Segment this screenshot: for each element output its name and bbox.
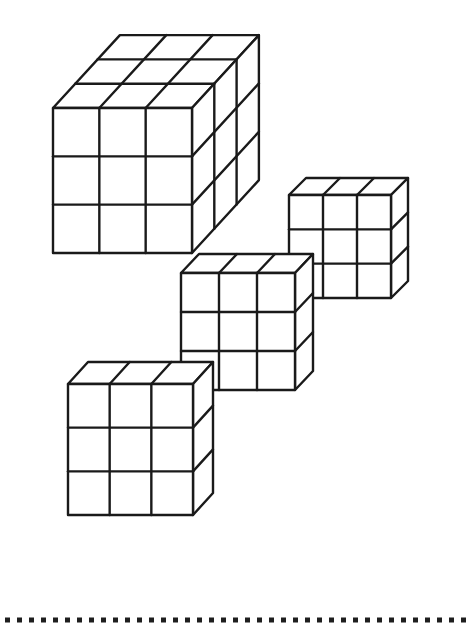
cut-line-dot [41,618,46,623]
cube-drawings [53,35,408,515]
cut-line-dot [125,618,130,623]
cut-line-dot [185,618,190,623]
side-face [193,362,213,515]
cut-line-dot [461,618,466,623]
side-face [295,254,313,390]
cut-line-dot [305,618,310,623]
cut-line-dot [17,618,22,623]
cut-line-dot [353,618,358,623]
cut-line-dot [53,618,58,623]
cut-line-dot [113,618,118,623]
cut-line-dot [77,618,82,623]
front-face [68,384,193,515]
cut-line-dot [197,618,202,623]
worksheet-canvas [0,0,473,639]
cut-line-dot [161,618,166,623]
cut-line-dot [329,618,334,623]
cut-line-dot [257,618,262,623]
cut-line-dot [269,618,274,623]
top-face [68,362,213,384]
cube-3x3x1-bottom-left [68,362,213,515]
cut-line-dot [245,618,250,623]
cut-line-dot [173,618,178,623]
cut-line-dot [101,618,106,623]
cut-line-dot [89,618,94,623]
side-face [391,178,408,298]
cut-line-dot [137,618,142,623]
cut-line-dot [65,618,70,623]
cut-line-dot [29,618,34,623]
cut-line-dot [293,618,298,623]
cut-line-dot [389,618,394,623]
cut-line-dot [413,618,418,623]
cut-line-dot [377,618,382,623]
cut-line-dot [425,618,430,623]
large-cube-3x3x3 [53,35,259,253]
top-face [181,254,313,273]
cut-line-dot [449,618,454,623]
top-face [289,178,408,195]
cut-line-dot [5,618,10,623]
cut-line-dot [209,618,214,623]
cut-line-dot [221,618,226,623]
dotted-cut-line [5,618,466,623]
front-face [53,108,192,253]
cut-line-dot [437,618,442,623]
cut-line-dot [341,618,346,623]
cut-line-dot [233,618,238,623]
cut-line-dot [281,618,286,623]
cut-line-dot [401,618,406,623]
cut-line-dot [365,618,370,623]
cut-line-dot [149,618,154,623]
cut-line-dot [317,618,322,623]
